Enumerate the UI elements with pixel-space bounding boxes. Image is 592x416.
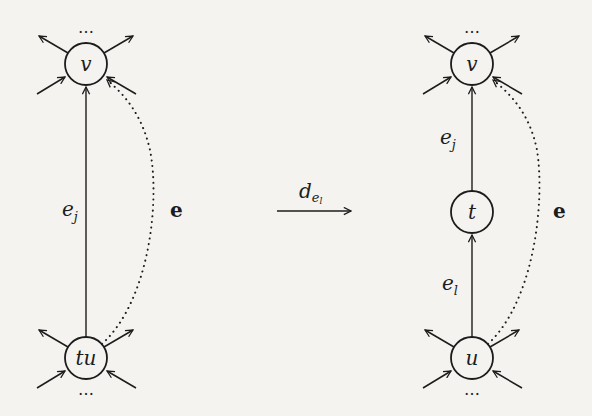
- right-node-v: … v: [423, 18, 522, 94]
- left-edge-e-label: e: [170, 198, 183, 222]
- left-v-in-arrow-left: [37, 77, 65, 94]
- right-v-in-arrow-right: [493, 77, 522, 94]
- right-edge-el-label: el: [442, 271, 458, 298]
- left-tu-out-arrow-right: [104, 330, 133, 347]
- left-tu-out-arrow-left: [39, 330, 68, 347]
- left-edge-ej-label: ej: [62, 197, 78, 224]
- right-t-label: t: [468, 200, 477, 224]
- right-node-u: u …: [423, 330, 522, 399]
- right-u-out-arrow-left: [425, 330, 454, 347]
- left-node-tu: tu …: [37, 330, 136, 399]
- left-v-out-arrow-right: [104, 36, 133, 53]
- right-u-out-arrow-right: [490, 330, 519, 347]
- left-v-ellipsis: …: [78, 18, 94, 37]
- right-edge-e-dotted: [488, 80, 539, 344]
- right-edge-e-label: e: [553, 199, 566, 223]
- right-edge-ej-label: ej: [440, 125, 456, 152]
- left-v-in-arrow-right: [107, 77, 136, 94]
- left-tu-ellipsis: …: [78, 380, 94, 399]
- diagram-canvas: … v tu … ej e del: [0, 0, 592, 416]
- left-node-v: … v: [37, 18, 136, 94]
- right-u-in-arrow-left: [423, 371, 451, 388]
- left-edge-e-dotted: [102, 80, 154, 344]
- right-u-label: u: [466, 346, 479, 370]
- left-v-label: v: [80, 52, 92, 76]
- right-u-ellipsis: …: [464, 380, 480, 399]
- diagram-svg: … v tu … ej e del: [0, 0, 592, 416]
- left-tu-in-arrow-right: [107, 371, 136, 388]
- right-v-out-arrow-right: [490, 36, 519, 53]
- right-v-in-arrow-left: [423, 77, 451, 94]
- right-graph: … v t u … ej el e: [423, 18, 566, 399]
- right-u-in-arrow-right: [493, 371, 522, 388]
- right-node-t: t: [451, 191, 493, 233]
- left-v-out-arrow-left: [39, 36, 68, 53]
- right-v-out-arrow-left: [425, 36, 454, 53]
- left-tu-label: tu: [76, 346, 97, 370]
- right-v-ellipsis: …: [464, 18, 480, 37]
- left-graph: … v tu … ej e: [37, 18, 183, 399]
- right-v-label: v: [466, 52, 478, 76]
- left-tu-in-arrow-left: [37, 371, 65, 388]
- transformation-label: del: [299, 179, 323, 206]
- transformation-arrow: del: [277, 179, 351, 211]
